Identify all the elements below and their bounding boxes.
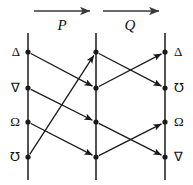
column-left-node-row4 — [25, 154, 30, 159]
column-right-node-row1 — [162, 49, 167, 54]
column-middle-node-row1 — [93, 49, 98, 54]
column-left-label-row2: ∇ — [4, 81, 20, 94]
column-right-node-row2 — [162, 85, 167, 90]
column-right-label-row1: Δ — [174, 45, 190, 58]
column-right-label-row2: ℧ — [174, 81, 190, 94]
permutation-diagram: PQΔ∇Ω℧Δ℧Ω∇ — [0, 0, 193, 185]
operation-q-label: Q — [120, 18, 140, 33]
column-left-label-row1: Δ — [4, 45, 20, 58]
column-left-node-row3 — [25, 119, 30, 124]
column-left-label-row4: ℧ — [4, 150, 20, 163]
column-right-node-row4 — [162, 154, 167, 159]
operation-p-edge-1-to-2 — [31, 53, 93, 86]
column-middle-node-row2 — [93, 85, 98, 90]
column-left-label-row3: Ω — [4, 115, 20, 128]
operation-p-label: P — [52, 18, 72, 33]
column-middle-node-row4 — [93, 154, 98, 159]
column-right-node-row3 — [162, 119, 167, 124]
column-left-node-row2 — [25, 85, 30, 90]
column-middle-node-row3 — [93, 119, 98, 124]
column-left-node-row1 — [25, 49, 30, 54]
column-right-label-row3: Ω — [174, 115, 190, 128]
diagram-canvas — [0, 0, 193, 185]
column-right-label-row4: ∇ — [174, 150, 190, 163]
